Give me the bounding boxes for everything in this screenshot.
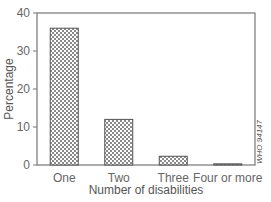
bar-three (159, 156, 187, 165)
y-tick-label: 0 (23, 158, 30, 172)
bar-four-or-more (214, 164, 242, 165)
y-tick-label: 10 (17, 120, 31, 134)
figure-id-annotation: WHO 94147 (255, 119, 264, 164)
y-tick-label: 30 (17, 44, 31, 58)
bars (50, 28, 242, 165)
y-tick-label: 40 (17, 6, 31, 20)
y-axis-ticks: 010203040 (17, 6, 37, 172)
y-axis-label: Percentage (2, 58, 16, 120)
x-tick-label: One (53, 171, 76, 185)
x-tick-label: Four or more (193, 171, 263, 185)
x-axis-label: Number of disabilities (89, 183, 204, 197)
y-tick-label: 20 (17, 82, 31, 96)
bar-two (105, 119, 133, 165)
bar-chart: 010203040 OneTwoThreeFour or more Number… (0, 0, 271, 202)
bar-one (50, 28, 78, 165)
